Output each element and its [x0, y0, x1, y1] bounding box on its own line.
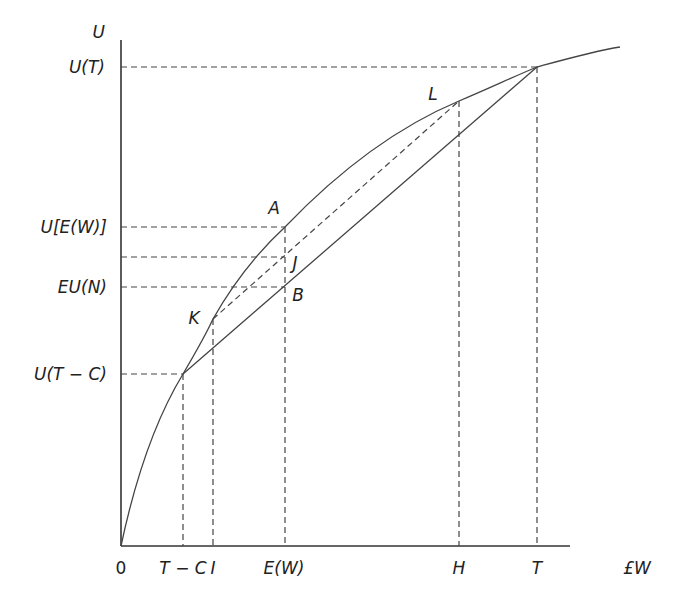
point-b-label: B — [292, 285, 304, 305]
x-axis-label: £W — [623, 558, 652, 578]
x-tick-tc: T − C — [159, 558, 206, 578]
point-j-label: J — [289, 253, 297, 273]
chord-line-k-to-l — [213, 101, 459, 319]
utility-diagram: U U(T) U[E(W)] EU(N) U(T − C) 0 T − C I … — [0, 0, 680, 596]
point-a-label: A — [267, 198, 280, 218]
origin-label: 0 — [116, 558, 127, 578]
utility-curve — [121, 47, 620, 546]
y-tick-eu-n: EU(N) — [58, 277, 107, 297]
y-tick-u-t: U(T) — [69, 57, 105, 77]
y-tick-u-tc: U(T − C) — [34, 364, 107, 384]
y-tick-u-ew: U[E(W)] — [40, 217, 107, 237]
x-tick-i: I — [210, 558, 215, 578]
x-tick-t: T — [532, 558, 544, 578]
x-tick-ew: E(W) — [264, 558, 305, 578]
x-tick-h: H — [453, 558, 466, 578]
point-l-label: L — [428, 84, 437, 104]
chord-line-tc-to-t — [183, 67, 537, 374]
y-axis-label: U — [93, 22, 106, 42]
point-k-label: K — [188, 308, 201, 328]
